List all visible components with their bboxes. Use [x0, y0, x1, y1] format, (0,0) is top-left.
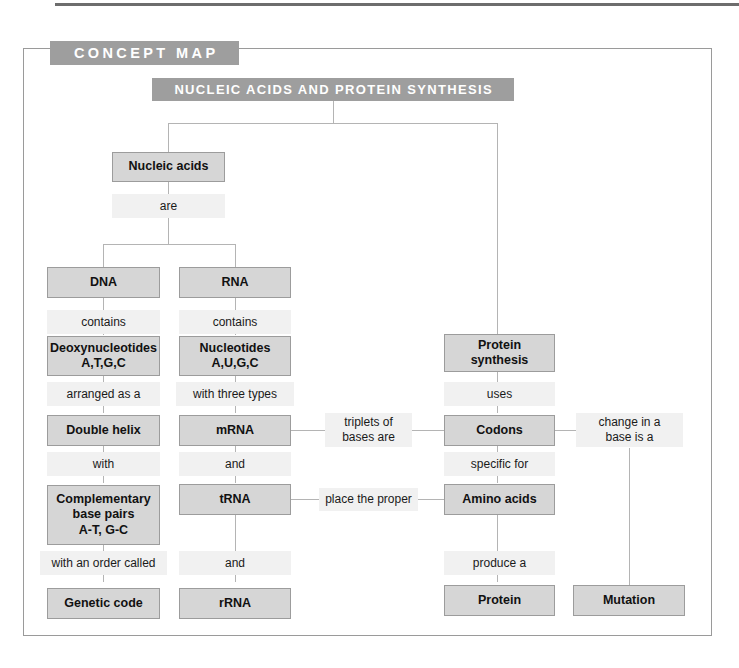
map-title-banner: NUCLEIC ACIDS AND PROTEIN SYNTHESIS — [152, 78, 514, 101]
concept-box-dna[interactable]: DNA — [47, 267, 160, 298]
concept-box-mrna[interactable]: mRNA — [179, 415, 291, 446]
link-label-change-in-a-base-is-a: change in a base is a — [576, 413, 683, 447]
concept-box-mutation[interactable]: Mutation — [573, 585, 685, 616]
connector-change-to-mutation — [629, 448, 630, 585]
link-label-arranged-as-a: arranged as a — [47, 382, 160, 406]
connector-mrna-to-triplets — [290, 430, 325, 431]
concept-box-protein[interactable]: Protein — [444, 585, 555, 616]
concept-box-protein-synthesis[interactable]: Protein synthesis — [444, 334, 555, 372]
concept-box-codons[interactable]: Codons — [444, 415, 555, 446]
concept-box-complementary-base-pairs[interactable]: Complementary base pairs A-T, G-C — [47, 485, 160, 545]
link-label-are: are — [112, 194, 225, 218]
link-label-and-trna-rrna: and — [179, 551, 291, 575]
concept-box-nucleotides[interactable]: Nucleotides A,U,G,C — [179, 336, 291, 376]
link-label-rna-contains: contains — [179, 310, 291, 334]
concept-box-deoxynucleotides[interactable]: Deoxynucleotides A,T,G,C — [47, 336, 160, 376]
top-page-rule — [55, 3, 739, 6]
concept-map-page: CONCEPT MAP NUCLEIC ACIDS AND PROTEIN SY… — [0, 0, 739, 668]
connector-title-split — [168, 123, 498, 124]
concept-box-double-helix[interactable]: Double helix — [47, 415, 160, 446]
connector-to-protein-synthesis — [497, 123, 498, 335]
link-label-with: with — [47, 452, 160, 476]
connector-dna-rna-split — [103, 244, 235, 245]
concept-box-nucleic-acids[interactable]: Nucleic acids — [112, 152, 225, 182]
connector-trna-to-placeproper — [290, 499, 319, 500]
connector-to-nucleic-acids — [168, 123, 169, 153]
link-label-with-three-types: with three types — [176, 382, 294, 406]
concept-map-banner: CONCEPT MAP — [50, 41, 239, 65]
link-label-uses: uses — [444, 382, 555, 406]
concept-box-rna[interactable]: RNA — [179, 267, 291, 298]
link-label-with-an-order-called: with an order called — [40, 551, 167, 575]
concept-box-trna[interactable]: tRNA — [179, 484, 291, 515]
connector-split-to-dna — [103, 244, 104, 267]
connector-title-down — [333, 101, 334, 123]
link-label-and-mrna-trna: and — [179, 452, 291, 476]
link-label-dna-contains: contains — [47, 310, 160, 334]
concept-box-amino-acids[interactable]: Amino acids — [444, 484, 555, 515]
connector-split-to-rna — [235, 244, 236, 267]
connector-triplets-to-codons — [411, 430, 444, 431]
link-label-produce-a: produce a — [444, 551, 555, 575]
link-label-triplets-of-bases-are: triplets of bases are — [325, 413, 412, 447]
link-label-place-the-proper: place the proper — [319, 488, 418, 511]
link-label-specific-for: specific for — [444, 452, 555, 476]
concept-box-rrna[interactable]: rRNA — [179, 588, 291, 619]
connector-placeproper-to-aminoacids — [417, 499, 444, 500]
concept-box-genetic-code[interactable]: Genetic code — [47, 588, 160, 619]
